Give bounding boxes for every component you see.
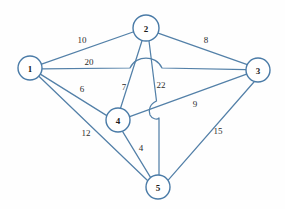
edge-weight-4-5: 4 — [139, 143, 144, 153]
node-2-label: 2 — [144, 24, 149, 34]
edge-weight-1-2: 10 — [78, 35, 88, 45]
node-4-label: 4 — [116, 116, 121, 126]
edge-1-5 — [39, 76, 148, 181]
node-5[interactable]: 5 — [146, 175, 170, 199]
edge-weight-2-4: 7 — [122, 82, 127, 92]
edge-2-4 — [121, 41, 143, 108]
node-2[interactable]: 2 — [133, 15, 159, 41]
node-1[interactable]: 1 — [18, 56, 42, 80]
edge-weight-3-4: 9 — [193, 99, 198, 109]
edge-weight-3-5: 15 — [214, 126, 224, 136]
edge-weight-1-4: 6 — [80, 84, 85, 94]
node-3[interactable]: 3 — [246, 58, 270, 82]
edge-2-3 — [158, 33, 247, 64]
edge-weight-2-3: 8 — [204, 35, 209, 45]
edge-weight-2-5: 22 — [157, 80, 166, 90]
graph-svg: 10 20 6 12 8 7 22 9 15 4 1 2 3 — [0, 0, 285, 209]
edge-layer — [39, 32, 255, 181]
edge-weight-1-5: 12 — [82, 128, 91, 138]
edge-weight-1-3: 20 — [85, 57, 95, 67]
edge-3-5 — [168, 82, 255, 181]
node-5-label: 5 — [156, 183, 161, 193]
node-1-label: 1 — [28, 64, 33, 74]
graph-diagram-canvas: 10 20 6 12 8 7 22 9 15 4 1 2 3 — [0, 0, 285, 209]
node-3-label: 3 — [256, 66, 261, 76]
edge-1-3 — [42, 58, 246, 70]
node-4[interactable]: 4 — [106, 108, 130, 132]
